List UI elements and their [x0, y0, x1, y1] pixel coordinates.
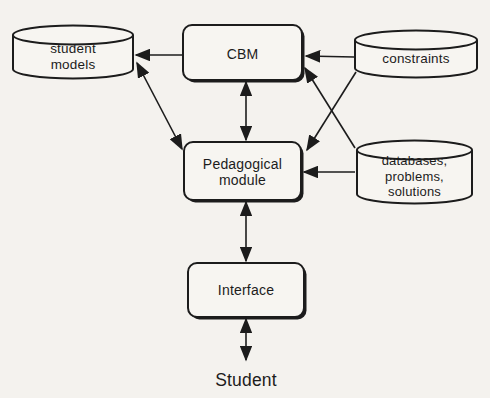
pedagogical-module-label: Pedagogical module [184, 156, 301, 188]
interface-label: Interface [188, 282, 304, 298]
edge-constraints-to-cbm [306, 56, 354, 57]
databases-label: databases, problems, solutions [357, 153, 472, 200]
student-label: Student [186, 370, 306, 391]
constraints-label: constraints [355, 51, 477, 67]
cbm-label: CBM [183, 46, 302, 62]
edge-databases-to-cbm [305, 68, 355, 148]
edge-student-models-pedagogical [137, 63, 182, 149]
diagram-canvas: student models CBM constraints Pedagogic… [0, 0, 490, 398]
student-models-label: student models [13, 41, 133, 73]
